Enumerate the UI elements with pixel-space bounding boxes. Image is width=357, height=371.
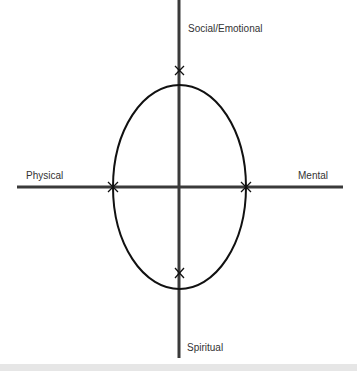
label-spiritual: Spiritual <box>187 342 223 353</box>
wellness-quadrant-diagram <box>0 0 357 371</box>
label-physical: Physical <box>26 170 63 181</box>
label-social-emotional: Social/Emotional <box>188 23 262 34</box>
footer-band <box>0 364 357 371</box>
label-mental: Mental <box>298 170 328 181</box>
